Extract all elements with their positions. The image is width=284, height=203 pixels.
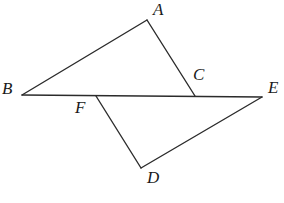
point-label-D: D xyxy=(147,169,159,186)
geometry-figure: A B C D E F xyxy=(0,0,284,203)
figure-canvas xyxy=(0,0,284,203)
segment-AC xyxy=(147,20,195,96)
segment-BA xyxy=(22,20,147,95)
point-label-C: C xyxy=(193,66,204,83)
segment-BE xyxy=(22,95,262,97)
segment-DE xyxy=(141,97,262,168)
point-label-A: A xyxy=(153,1,163,18)
segment-layer xyxy=(22,20,262,168)
point-label-F: F xyxy=(75,99,85,116)
point-label-B: B xyxy=(2,80,12,97)
segment-FD xyxy=(96,96,141,168)
point-label-E: E xyxy=(268,79,278,96)
